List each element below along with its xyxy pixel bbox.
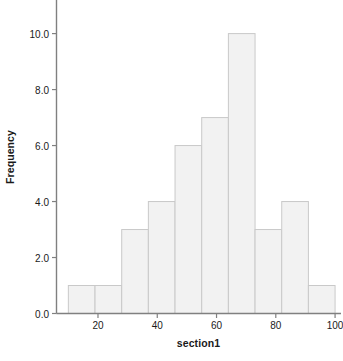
histogram-bar bbox=[122, 230, 149, 314]
x-tick-label: 80 bbox=[270, 320, 281, 331]
x-tick-label: 60 bbox=[211, 320, 222, 331]
histogram-bar bbox=[68, 286, 95, 314]
histogram-bar bbox=[175, 146, 202, 314]
histogram-bar bbox=[308, 286, 335, 314]
histogram-bar bbox=[202, 118, 229, 314]
x-tick-label: 20 bbox=[92, 320, 103, 331]
x-tick-label: 40 bbox=[152, 320, 163, 331]
histogram-bar bbox=[282, 202, 309, 314]
x-axis-tick-labels: 20406080100 bbox=[0, 320, 341, 335]
histogram-bar bbox=[255, 230, 282, 314]
histogram-bar bbox=[228, 34, 255, 314]
x-axis-title: section1 bbox=[56, 337, 341, 349]
histogram-bar bbox=[95, 286, 122, 314]
bars-group bbox=[68, 34, 335, 314]
histogram-bar bbox=[148, 202, 175, 314]
x-tick-label: 100 bbox=[327, 320, 343, 331]
